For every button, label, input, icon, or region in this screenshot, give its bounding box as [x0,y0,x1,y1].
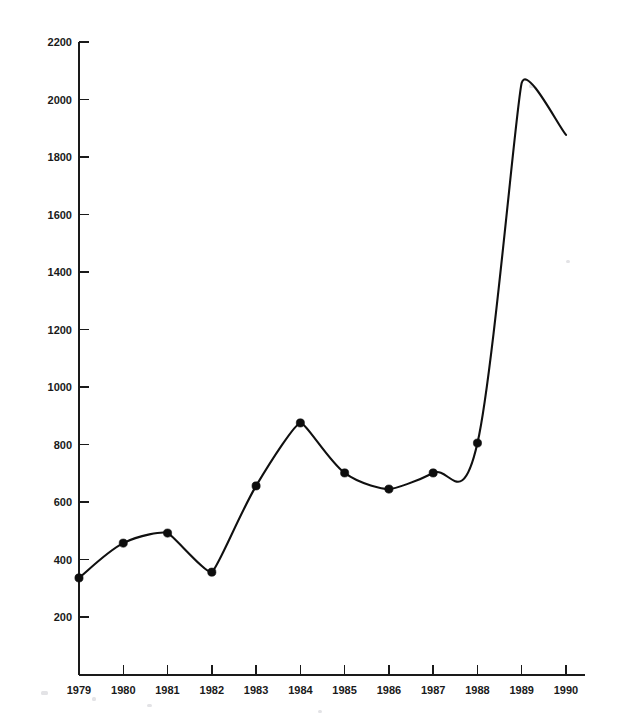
x-tick-label: 1990 [554,684,578,696]
data-point-marker [75,574,83,582]
x-axis: 1979 1980 1981 1982 1983 1984 1985 1986 … [67,665,585,696]
y-tick-label: 400 [54,554,72,566]
line-chart-plot: 2200 2000 1800 1600 1400 1200 1000 800 6… [0,0,622,727]
y-tick-label: 1400 [48,266,72,278]
data-series-group [75,79,566,582]
y-axis-ticks [79,42,89,617]
data-point-marker [341,469,349,477]
x-axis-ticks [79,665,566,675]
data-point-marker [163,529,171,537]
data-point-marker [208,568,216,576]
x-tick-label: 1979 [67,684,91,696]
data-point-marker [296,419,304,427]
y-tick-label: 2200 [48,36,72,48]
x-tick-label: 1989 [509,684,533,696]
data-point-marker [119,539,127,547]
data-line-series-1 [79,79,566,578]
x-tick-label: 1982 [200,684,224,696]
y-axis-tick-labels: 2200 2000 1800 1600 1400 1200 1000 800 6… [48,36,72,623]
data-marker-group [75,419,482,582]
x-tick-label: 1988 [465,684,489,696]
x-tick-label: 1985 [332,684,356,696]
y-tick-label: 1200 [48,324,72,336]
x-tick-label: 1980 [111,684,135,696]
chart-figure: 2200 2000 1800 1600 1400 1200 1000 800 6… [0,0,622,727]
y-tick-label: 600 [54,496,72,508]
data-point-marker [473,439,481,447]
y-tick-label: 200 [54,611,72,623]
data-point-marker [385,485,393,493]
x-axis-tick-labels: 1979 1980 1981 1982 1983 1984 1985 1986 … [67,684,578,696]
data-point-marker [429,469,437,477]
x-tick-label: 1983 [244,684,268,696]
x-tick-label: 1984 [288,684,313,696]
data-point-marker [252,482,260,490]
y-tick-label: 2000 [48,94,72,106]
y-tick-label: 800 [54,439,72,451]
x-tick-label: 1986 [377,684,401,696]
y-tick-label: 1600 [48,209,72,221]
y-tick-label: 1000 [48,381,72,393]
x-tick-label: 1987 [421,684,445,696]
y-tick-label: 1800 [48,151,72,163]
scan-speckle-group [41,84,570,713]
x-tick-label: 1981 [155,684,179,696]
